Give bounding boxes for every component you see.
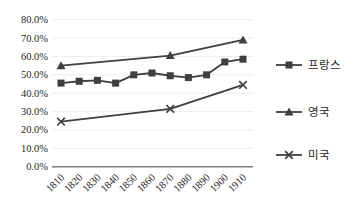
chart-container: 0.0%10.0%20.0%30.0%40.0%50.0%60.0%70.0%8… bbox=[0, 0, 356, 218]
x-tick-label: 1820 bbox=[62, 172, 85, 195]
square-marker bbox=[203, 71, 210, 78]
x-tick-label: 1880 bbox=[171, 172, 194, 195]
x-tick-label: 1840 bbox=[98, 172, 121, 195]
y-tick-label: 0.0% bbox=[26, 161, 48, 172]
legend-label-usa: 미국 bbox=[308, 147, 330, 163]
y-tick-label: 80.0% bbox=[21, 14, 48, 25]
series-line-x bbox=[61, 85, 243, 122]
x-tick-label: 1910 bbox=[226, 172, 249, 195]
triangle-marker-icon bbox=[276, 106, 302, 118]
square-marker bbox=[149, 69, 156, 76]
series-line-triangle bbox=[61, 40, 243, 66]
square-marker bbox=[112, 80, 119, 87]
y-tick-label: 30.0% bbox=[21, 106, 48, 117]
square-marker bbox=[94, 77, 101, 84]
y-tick-label: 40.0% bbox=[21, 88, 48, 99]
x-tick-label: 1890 bbox=[189, 172, 212, 195]
square-marker bbox=[58, 80, 65, 87]
legend-item-uk: 영국 bbox=[276, 104, 330, 120]
x-tick-label: 1830 bbox=[80, 172, 103, 195]
x-tick-label: 1860 bbox=[135, 172, 158, 195]
square-marker bbox=[221, 58, 228, 65]
legend-label-uk: 영국 bbox=[308, 104, 330, 120]
triangle-marker bbox=[239, 35, 248, 43]
square-marker bbox=[240, 56, 247, 63]
y-tick-label: 50.0% bbox=[21, 69, 48, 80]
legend: 프랑스 영국 미국 bbox=[276, 0, 356, 218]
square-legend-marker bbox=[286, 62, 293, 69]
square-marker bbox=[167, 72, 174, 79]
square-marker-icon bbox=[276, 59, 302, 71]
y-tick-label: 60.0% bbox=[21, 51, 48, 62]
legend-label-france: 프랑스 bbox=[308, 57, 341, 73]
y-tick-label: 10.0% bbox=[21, 143, 48, 154]
square-marker bbox=[185, 74, 192, 81]
x-marker-icon bbox=[276, 149, 302, 161]
x-tick-label: 1870 bbox=[153, 172, 176, 195]
legend-item-france: 프랑스 bbox=[276, 57, 341, 73]
y-tick-label: 70.0% bbox=[21, 33, 48, 44]
x-tick-label: 1810 bbox=[44, 172, 67, 195]
x-tick-label: 1900 bbox=[208, 172, 231, 195]
square-marker bbox=[130, 71, 137, 78]
square-marker bbox=[76, 78, 83, 85]
y-tick-label: 20.0% bbox=[21, 124, 48, 135]
legend-item-usa: 미국 bbox=[276, 147, 330, 163]
x-tick-label: 1850 bbox=[117, 172, 140, 195]
